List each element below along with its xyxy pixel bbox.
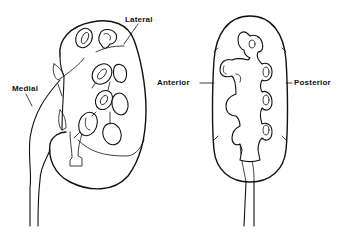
kidney-illustration (0, 0, 338, 232)
left-kidney (26, 21, 146, 226)
kidney-diagram: Lateral Medial Anterior Posterior (0, 0, 338, 232)
left-calyces (73, 26, 130, 148)
medial-pointer (26, 94, 32, 106)
label-medial: Medial (12, 84, 38, 93)
right-kidney (200, 16, 292, 226)
label-lateral: Lateral (125, 15, 153, 24)
label-anterior: Anterior (157, 78, 190, 87)
right-calyces (220, 32, 272, 162)
lateral-pointer (124, 24, 138, 44)
label-posterior: Posterior (294, 78, 331, 87)
